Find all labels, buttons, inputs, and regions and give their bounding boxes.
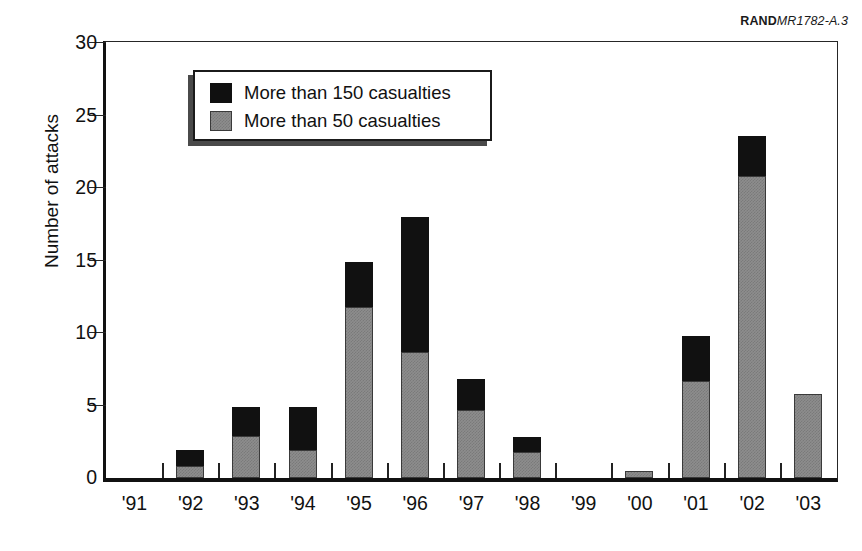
x-tick-label-03: '03 [796, 492, 821, 515]
x-tick-mark [162, 463, 164, 478]
rand-brand-label: RAND [740, 14, 777, 28]
bar-96 [401, 217, 429, 478]
bar-segment-more-than-150 [176, 450, 204, 466]
legend-swatch-gray [210, 111, 232, 131]
x-tick-label-95: '95 [346, 492, 371, 515]
legend-swatch-black [210, 83, 232, 103]
bar-03 [794, 394, 822, 478]
legend-box: More than 150 casualtiesMore than 50 cas… [193, 70, 492, 141]
rand-credit-line: RANDMR1782-A.3 [740, 14, 848, 28]
y-tick-label: 25 [75, 103, 97, 126]
bar-segment-more-than-50 [738, 176, 766, 478]
x-tick-label-99: '99 [571, 492, 596, 515]
bar-segment-more-than-50 [625, 471, 653, 478]
bar-98 [513, 437, 541, 478]
y-tick-label: 5 [86, 393, 97, 416]
bar-segment-more-than-150 [345, 262, 373, 307]
x-tick-mark [331, 463, 333, 478]
x-tick-mark [555, 463, 557, 478]
bar-segment-more-than-50 [682, 381, 710, 478]
x-tick-label-97: '97 [459, 492, 484, 515]
y-tick-label: 20 [75, 176, 97, 199]
y-tick-label: 30 [75, 31, 97, 54]
x-tick-label-96: '96 [403, 492, 428, 515]
bar-segment-more-than-50 [289, 450, 317, 478]
x-tick-mark [611, 463, 613, 478]
legend-item: More than 50 casualties [210, 107, 490, 135]
rand-document-number: MR1782-A.3 [777, 14, 848, 28]
x-tick-mark [668, 463, 670, 478]
bar-segment-more-than-150 [682, 336, 710, 381]
y-tick-label: 15 [75, 248, 97, 271]
legend-label: More than 50 casualties [244, 112, 440, 131]
bar-segment-more-than-150 [738, 136, 766, 177]
bar-segment-more-than-150 [457, 379, 485, 409]
x-tick-label-00: '00 [627, 492, 652, 515]
bar-00 [625, 471, 653, 478]
x-tick-label-91: '91 [122, 492, 147, 515]
x-tick-label-94: '94 [290, 492, 315, 515]
bar-segment-more-than-50 [513, 452, 541, 478]
figure-canvas: RANDMR1782-A.3 Number of attacks 0510152… [0, 0, 862, 551]
x-tick-mark [724, 463, 726, 478]
x-tick-mark [274, 463, 276, 478]
x-tick-label-02: '02 [739, 492, 764, 515]
x-tick-label-01: '01 [683, 492, 708, 515]
legend-label: More than 150 casualties [244, 84, 451, 103]
x-tick-mark [443, 463, 445, 478]
bar-segment-more-than-150 [401, 217, 429, 352]
bar-94 [289, 407, 317, 478]
bar-01 [682, 336, 710, 478]
bar-93 [232, 407, 260, 478]
bar-segment-more-than-50 [457, 410, 485, 478]
y-tick-label: 0 [86, 466, 97, 489]
x-tick-label-92: '92 [178, 492, 203, 515]
x-tick-mark [218, 463, 220, 478]
x-tick-label-98: '98 [515, 492, 540, 515]
x-tick-mark [387, 463, 389, 478]
legend-item: More than 150 casualties [210, 79, 490, 107]
bar-segment-more-than-150 [289, 407, 317, 451]
bar-segment-more-than-150 [513, 437, 541, 452]
x-tick-label-93: '93 [234, 492, 259, 515]
x-tick-mark [780, 463, 782, 478]
y-tick-label: 10 [75, 321, 97, 344]
bar-97 [457, 379, 485, 478]
bar-95 [345, 262, 373, 478]
x-tick-mark [499, 463, 501, 478]
bar-92 [176, 450, 204, 478]
bar-segment-more-than-50 [345, 307, 373, 478]
bar-segment-more-than-50 [794, 394, 822, 478]
bar-segment-more-than-50 [401, 352, 429, 478]
bar-segment-more-than-50 [176, 466, 204, 478]
bar-segment-more-than-150 [232, 407, 260, 436]
bar-segment-more-than-50 [232, 436, 260, 478]
bar-02 [738, 136, 766, 478]
y-axis-title: Number of attacks [41, 51, 63, 331]
